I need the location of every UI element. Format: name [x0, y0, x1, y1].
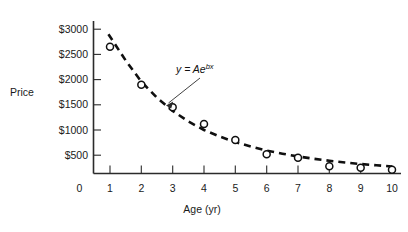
data-point-marker: [389, 166, 396, 173]
x-tick-label: 4: [201, 182, 207, 194]
chart-figure: $500$1000$1500$2000$2500$3000 0123456789…: [0, 0, 408, 232]
data-point-markers: [107, 43, 396, 173]
y-tick-label: $500: [65, 149, 89, 161]
plot-axes: [94, 21, 402, 174]
y-axis-tick-labels: $500$1000$1500$2000$2500$3000: [59, 23, 88, 161]
price-vs-age-scatter-plot: $500$1000$1500$2000$2500$3000 0123456789…: [0, 0, 408, 232]
x-tick-label: 2: [138, 182, 144, 194]
annotation-leader-line: [169, 78, 201, 103]
y-tick-label: $3000: [59, 23, 88, 35]
y-tick-label: $2000: [59, 73, 88, 85]
x-axis-title: Age (yr): [183, 203, 220, 215]
x-tick-label: 3: [170, 182, 176, 194]
y-tick-label: $1000: [59, 124, 88, 136]
fit-equation-annotation: y = Aebx: [166, 62, 214, 108]
x-axis-tick-labels: 012345678910: [77, 182, 398, 194]
data-point-marker: [138, 81, 145, 88]
data-point-marker: [263, 151, 270, 158]
x-axis-ticks: [110, 166, 392, 174]
exponential-fit-curve: [108, 34, 392, 166]
data-point-marker: [357, 164, 364, 171]
y-tick-label: $1500: [59, 98, 88, 110]
x-tick-label: 1: [107, 182, 113, 194]
x-tick-label: 9: [358, 182, 364, 194]
data-point-marker: [107, 43, 114, 50]
x-tick-label: 10: [386, 182, 398, 194]
data-point-marker: [201, 120, 208, 127]
y-axis-ticks: [94, 29, 102, 155]
annotation-equation-text: y = Aebx: [175, 62, 214, 75]
y-tick-label: $2500: [59, 48, 88, 60]
data-point-marker: [295, 154, 302, 161]
data-point-marker: [232, 137, 239, 144]
data-point-marker: [326, 163, 333, 170]
x-tick-label: 7: [295, 182, 301, 194]
x-tick-label: 8: [326, 182, 332, 194]
y-axis-title: Price: [10, 86, 34, 98]
x-tick-label: 6: [264, 182, 270, 194]
x-tick-label: 5: [232, 182, 238, 194]
x-tick-label: 0: [77, 182, 83, 194]
